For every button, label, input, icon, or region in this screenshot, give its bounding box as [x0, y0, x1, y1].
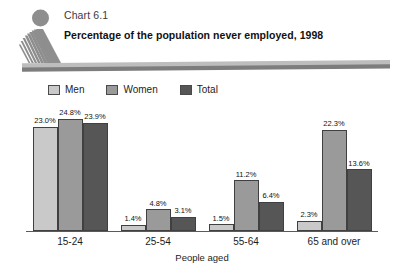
legend-label-total: Total: [197, 85, 218, 95]
legend-item-men: Men: [48, 85, 84, 95]
header-rule: [22, 58, 390, 70]
bar-slot: 1.5%: [209, 104, 234, 231]
bar-slot: 22.3%: [322, 104, 347, 231]
bar-slot: 11.2%: [234, 104, 259, 231]
bar-slot: 3.1%: [171, 104, 196, 231]
bar-slot: 24.8%: [58, 104, 83, 231]
bar: [322, 130, 347, 231]
bar-slot: 13.6%: [347, 104, 372, 231]
bar-slot: 6.4%: [259, 104, 284, 231]
chart-plot-area: 23.0%24.8%23.9%1.4%4.8%3.1%1.5%11.2%6.4%…: [26, 104, 378, 233]
bar-value-label: 6.4%: [262, 192, 279, 200]
bar-value-label: 22.3%: [323, 120, 344, 128]
bar-group: 23.0%24.8%23.9%: [26, 104, 114, 231]
bar-slot: 2.3%: [297, 104, 322, 231]
bar-value-label: 24.8%: [59, 109, 80, 117]
bar-slot: 1.4%: [121, 104, 146, 231]
x-axis-tick-label: 25-54: [114, 236, 202, 247]
bar: [347, 169, 372, 231]
bar-slot: 4.8%: [146, 104, 171, 231]
bar: [171, 217, 196, 231]
x-axis-tick-label: 55-64: [202, 236, 290, 247]
chart-legend: Men Women Total: [48, 83, 218, 96]
x-axis-line: [26, 231, 378, 232]
legend-swatch-men: [48, 85, 60, 95]
legend-item-women: Women: [106, 85, 157, 95]
legend-label-women: Women: [123, 85, 157, 95]
bar: [259, 202, 284, 231]
bar-value-label: 23.0%: [34, 117, 55, 125]
x-axis-tick-label: 15-24: [26, 236, 114, 247]
bar-slot: 23.9%: [83, 104, 108, 231]
bar: [209, 224, 234, 231]
legend-label-men: Men: [65, 85, 84, 95]
x-axis-tick-labels: 15-2425-5455-6465 and over: [26, 236, 378, 247]
legend-item-total: Total: [180, 85, 218, 95]
bar-value-label: 1.5%: [212, 215, 229, 223]
bar-value-label: 23.9%: [84, 113, 105, 121]
bar: [297, 221, 322, 231]
bar-value-label: 11.2%: [236, 171, 257, 179]
bar: [234, 180, 259, 231]
chart-number: Chart 6.1: [64, 9, 108, 21]
chart-header: Chart 6.1 Percentage of the population n…: [0, 0, 404, 78]
chart-title: Percentage of the population never emplo…: [64, 29, 323, 41]
bar-value-label: 3.1%: [174, 207, 191, 215]
bar-slot: 23.0%: [33, 104, 58, 231]
bar-group: 1.5%11.2%6.4%: [202, 104, 290, 231]
x-axis-title: People aged: [0, 252, 404, 263]
bar-group: 2.3%22.3%13.6%: [290, 104, 378, 231]
legend-swatch-total: [180, 85, 192, 95]
bar-group: 1.4%4.8%3.1%: [114, 104, 202, 231]
bar-value-label: 2.3%: [300, 211, 317, 219]
bar: [146, 209, 171, 231]
x-axis-tick-label: 65 and over: [290, 236, 378, 247]
legend-swatch-women: [106, 85, 118, 95]
bar: [83, 123, 108, 231]
bar-value-label: 4.8%: [149, 200, 166, 208]
bar-value-label: 1.4%: [124, 215, 141, 223]
bar-value-label: 13.6%: [348, 160, 369, 168]
bar-groups: 23.0%24.8%23.9%1.4%4.8%3.1%1.5%11.2%6.4%…: [26, 104, 378, 231]
bar: [58, 119, 83, 231]
bar: [33, 127, 58, 231]
